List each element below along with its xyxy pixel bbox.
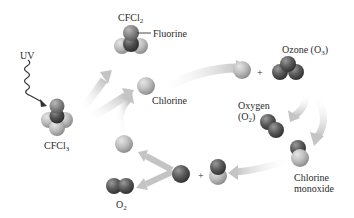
cfcl3-molecule [41, 99, 73, 137]
chlorine-label: Chlorine [152, 95, 187, 106]
arrow-to-o2 [136, 172, 172, 190]
ozone-label: Ozone (O3) [282, 44, 328, 55]
cfcl3-label: CFCl3 [44, 140, 69, 151]
arrow-regenerated-to-chlorine [120, 92, 134, 132]
cfcl2-label: CFCl2 [118, 12, 143, 23]
arrow-ozone-to-oxygen [288, 94, 306, 122]
chlorine-monoxide-molecule [290, 140, 309, 167]
oxygen-atom [172, 165, 190, 183]
chlorine-atom [137, 77, 155, 95]
ozone-depletion-diagram: UV CFCl3 CFCl2 Fluorine Chlorine + Ozone… [0, 0, 354, 218]
cfcl2-molecule [114, 25, 151, 54]
oxygen-label: Oxygen (O2) [238, 100, 270, 122]
ozone-molecule [272, 56, 304, 80]
chlorine-monoxide-label: Chlorine monoxide [294, 172, 334, 194]
o2-product-molecule [106, 178, 134, 194]
plus-sign-top: + [257, 67, 263, 78]
chlorine-atom-regenerated [115, 135, 133, 153]
arrow-chlorine-monoxide-to-reactants [228, 160, 290, 180]
arrow-to-regenerated-chlorine [138, 150, 172, 170]
uv-label: UV [20, 50, 34, 61]
arrow-ozone-to-chlorine-monoxide [310, 96, 324, 146]
chlorine-monoxide-reactant [209, 159, 227, 185]
chlorine-atom-reactant [233, 61, 251, 79]
uv-wave-icon [25, 60, 48, 107]
o2-label: O2 [116, 199, 127, 210]
plus-sign-bottom: + [198, 170, 204, 181]
fluorine-label: Fluorine [153, 28, 187, 39]
